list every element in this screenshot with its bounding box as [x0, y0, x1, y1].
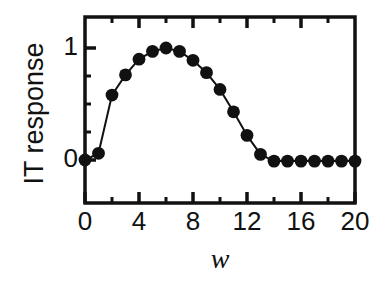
data-point-marker — [281, 155, 294, 168]
data-point-marker — [254, 148, 267, 161]
data-point-marker — [349, 155, 362, 168]
data-point-marker — [214, 83, 227, 96]
plot-canvas — [0, 0, 386, 285]
data-point-marker — [146, 45, 159, 58]
data-point-marker — [227, 105, 240, 118]
data-point-marker — [160, 42, 173, 55]
data-point-marker — [79, 154, 92, 167]
chart-figure: IT response w 048121620 01 — [0, 0, 386, 285]
plot-frame — [85, 17, 355, 203]
data-point-marker — [119, 68, 132, 81]
data-point-marker — [241, 129, 254, 142]
data-point-marker — [295, 155, 308, 168]
data-point-marker — [268, 155, 281, 168]
data-point-marker — [200, 66, 213, 79]
data-point-marker — [335, 155, 348, 168]
data-point-marker — [106, 89, 119, 102]
data-point-marker — [173, 45, 186, 58]
data-point-marker — [133, 53, 146, 66]
data-point-marker — [308, 155, 321, 168]
data-line — [85, 48, 355, 161]
data-point-marker — [187, 54, 200, 67]
data-point-marker — [322, 155, 335, 168]
data-point-marker — [92, 147, 105, 160]
